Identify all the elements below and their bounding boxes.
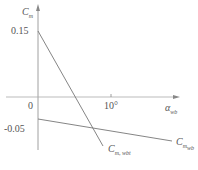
y-tick-m005: -0.05 xyxy=(4,123,25,134)
series-cm-wb xyxy=(38,119,172,141)
x-tick-10-label: 10° xyxy=(104,100,118,111)
chart-canvas xyxy=(0,0,198,170)
x-axis-label: αwb xyxy=(165,102,177,115)
series-cm-wbt xyxy=(38,31,103,146)
curve-label-cm-wb: Cmwb xyxy=(176,136,194,151)
x-axis-arrow-icon xyxy=(173,95,180,99)
y-axis-label: Cm xyxy=(22,6,33,19)
y-tick-015: 0.15 xyxy=(11,25,29,36)
y-axis-arrow-icon xyxy=(36,4,40,11)
curve-label-cm-wbt: Cm, wbt xyxy=(108,143,131,156)
y-tick-0: 0 xyxy=(28,100,33,111)
